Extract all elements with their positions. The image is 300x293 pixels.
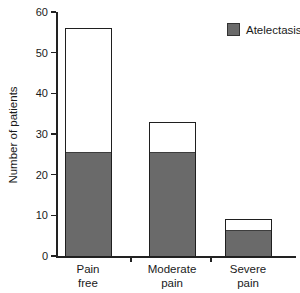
- x-category-label-line: Severe: [203, 263, 293, 277]
- y-axis-line: [56, 12, 58, 258]
- x-category-label-line: pain: [203, 277, 293, 291]
- x-category-label-line: Pain: [43, 263, 133, 277]
- bar-moderate-pain: [149, 122, 196, 258]
- y-tick-mark: [51, 11, 56, 13]
- bar-segment-atelectasis-severe-pain: [226, 230, 271, 257]
- x-category-label-severe-pain: Severepain: [203, 263, 293, 290]
- y-tick-mark: [51, 255, 56, 257]
- y-tick-mark: [51, 215, 56, 217]
- y-tick-label: 60: [18, 5, 48, 19]
- x-boundary-tick-mark: [130, 258, 132, 262]
- y-tick-label: 50: [18, 46, 48, 60]
- bar-severe-pain: [225, 219, 272, 257]
- bar-segment-atelectasis-moderate-pain: [150, 152, 195, 256]
- plot-area: 0102030405060PainfreeModeratepainSeverep…: [0, 0, 300, 293]
- y-tick-label: 0: [18, 249, 48, 263]
- y-tick-mark: [51, 174, 56, 176]
- x-category-label-line: free: [43, 277, 133, 291]
- x-category-label-pain-free: Painfree: [43, 263, 133, 290]
- y-tick-label: 20: [18, 168, 48, 182]
- bar-pain-free: [65, 28, 112, 257]
- x-boundary-tick-mark: [210, 258, 212, 262]
- stacked-bar-chart-figure: Number of patients Atelectasis 010203040…: [0, 0, 300, 293]
- y-tick-mark: [51, 133, 56, 135]
- bar-segment-atelectasis-pain-free: [66, 152, 111, 256]
- y-tick-mark: [51, 93, 56, 95]
- y-tick-label: 10: [18, 208, 48, 222]
- y-tick-mark: [51, 52, 56, 54]
- y-tick-label: 40: [18, 86, 48, 100]
- y-tick-label: 30: [18, 127, 48, 141]
